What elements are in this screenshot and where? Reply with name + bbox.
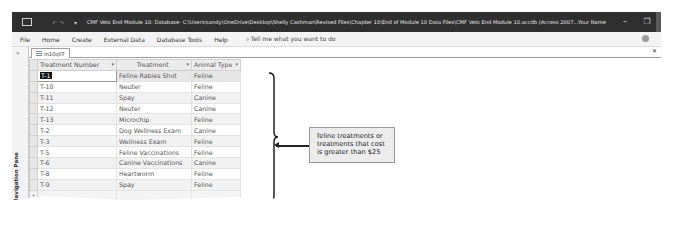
column-header-animal-type[interactable]: Animal Type▾ [192,60,241,71]
new-record-row: * [30,190,241,201]
navigation-pane-label[interactable]: Navigation Pane [13,152,19,203]
table-row: T-8 Heartworm Feline [30,168,241,179]
callout-box: feline treatments or treatments that cos… [309,127,395,163]
cell[interactable]: Canine [192,92,241,103]
record-selector[interactable] [30,81,38,92]
record-selector[interactable] [30,114,38,125]
table-row: T-5 Feline Vaccinations Feline [30,147,241,158]
cell[interactable]: T-13 [38,114,117,125]
cell[interactable] [192,190,241,201]
cell[interactable]: T-11 [38,92,117,103]
column-header-treatment-number[interactable]: Treatment Number▾ [38,60,117,71]
ribbon-tab-external-data[interactable]: External Data [104,36,145,43]
new-record-icon[interactable]: * [30,190,38,201]
table-row: T-12 Neuter Canine [30,103,241,114]
cell[interactable]: Wellness Exam [117,136,192,147]
cell[interactable]: T-1 [38,70,117,81]
customize-quick-access-icon[interactable]: ▾ [74,19,77,26]
cell[interactable]: Feline Rabies Shot [117,70,192,81]
table-row: T-9 Spay Feline [30,179,241,190]
cell[interactable]: Feline [192,114,241,125]
user-name[interactable]: Your Name [578,19,606,25]
save-icon[interactable] [22,18,32,26]
cell[interactable]: T-9 [38,179,117,190]
sort-filter-arrow-icon[interactable]: ▾ [186,61,189,67]
cell[interactable]: Canine [192,125,241,136]
ribbon-tab-file[interactable]: File [20,36,30,43]
ribbon-tab-create[interactable]: Create [72,36,92,43]
cell[interactable]: T-2 [38,125,117,136]
record-selector[interactable] [30,136,38,147]
table-row: T-3 Wellness Exam Feline [30,136,241,147]
smiley-feedback-icon[interactable] [642,35,649,42]
record-selector[interactable] [30,158,38,169]
query-icon [36,51,42,56]
bracket-annotation [268,72,278,202]
close-button[interactable]: ✕ [656,12,661,32]
tell-me-search[interactable]: ⌕ Tell me what you want to do [246,35,336,43]
record-selector[interactable] [30,92,38,103]
cell[interactable]: Heartworm [117,168,192,179]
restore-button[interactable]: ❐ [636,12,658,32]
cell[interactable]: Feline [192,168,241,179]
table-row: T-13 Microchip Feline [30,114,241,125]
record-selector[interactable] [30,168,38,179]
cell[interactable]: Feline Vaccinations [117,147,192,158]
cell[interactable]: Feline [192,147,241,158]
ribbon-tabs: File Home Create External Data Database … [12,32,661,47]
cell[interactable] [38,190,117,201]
cell[interactable]: T-3 [38,136,117,147]
cell[interactable]: T-6 [38,158,117,169]
cell[interactable]: Dog Wellness Exam [117,125,192,136]
cell[interactable]: Canine [192,103,241,114]
record-selector[interactable] [30,125,38,136]
cell[interactable]: T-8 [38,168,117,179]
table-row: T-2 Dog Wellness Exam Canine [30,125,241,136]
sort-filter-arrow-icon[interactable]: ▾ [111,61,114,67]
cell[interactable]: Feline [192,179,241,190]
cell[interactable]: Feline [192,81,241,92]
cell[interactable]: Canine Vaccinations [117,158,192,169]
close-document-icon[interactable]: ✕ [652,47,657,54]
window-title: CMF Vets End Module 10: Database- C:\Use… [87,19,578,25]
cell[interactable]: T-5 [38,147,117,158]
table-row: T-6 Canine Vaccinations Canine [30,158,241,169]
datasheet: Treatment Number▾ Treatment▾ Animal Type… [29,59,241,202]
cell[interactable]: Spay [117,92,192,103]
cell[interactable]: Neuter [117,81,192,92]
cell[interactable] [117,190,192,201]
column-header-treatment[interactable]: Treatment▾ [117,60,192,71]
sort-filter-arrow-icon[interactable]: ▾ [235,61,238,67]
cell[interactable]: T-12 [38,103,117,114]
cell[interactable]: Neuter [117,103,192,114]
header-row: Treatment Number▾ Treatment▾ Animal Type… [30,60,241,71]
ribbon-tab-home[interactable]: Home [42,36,60,43]
record-selector[interactable] [30,179,38,190]
navigation-pane[interactable]: » Navigation Pane [12,47,29,226]
title-bar: ↶ ↷ ▾ CMF Vets End Module 10: Database- … [12,12,661,32]
document-tab-bar: m10q07 ✕ [29,47,661,58]
table-row: T-10 Neuter Feline [30,81,241,92]
record-selector[interactable] [30,70,38,81]
access-window: ↶ ↷ ▾ CMF Vets End Module 10: Database- … [12,12,661,226]
cell[interactable]: Feline [192,136,241,147]
select-all-box[interactable] [30,60,38,71]
cell[interactable]: Microchip [117,114,192,125]
cell[interactable]: Canine [192,158,241,169]
table-row: T-11 Spay Canine [30,92,241,103]
table-row: T-1 Feline Rabies Shot Feline [30,70,241,81]
document-tab-m10q07[interactable]: m10q07 [31,48,70,58]
undo-icon[interactable]: ↶ ↷ [52,19,64,26]
record-selector[interactable] [30,103,38,114]
cell[interactable]: T-10 [38,81,117,92]
minimize-button[interactable]: – [614,12,636,32]
cell[interactable]: Feline [192,70,241,81]
ribbon-tab-database-tools[interactable]: Database Tools [157,36,202,43]
expand-nav-icon[interactable]: » [16,49,20,56]
ribbon-tab-help[interactable]: Help [214,36,228,43]
cell[interactable]: Spay [117,179,192,190]
record-selector[interactable] [30,147,38,158]
